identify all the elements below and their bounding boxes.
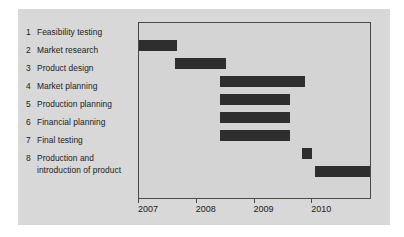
gantt-bar: [220, 130, 290, 141]
task-label: Production and introduction of product: [37, 153, 140, 176]
task-number: 5: [26, 99, 37, 111]
gantt-bar: [175, 58, 226, 69]
task-row: 7Final testing: [26, 135, 140, 147]
task-row: 8Production and introduction of product: [26, 153, 140, 176]
task-number: 4: [26, 81, 37, 93]
task-label: Product design: [37, 63, 140, 75]
task-number: 2: [26, 45, 37, 57]
gantt-bar: [220, 112, 290, 123]
axis-tick-label: 2008: [186, 204, 226, 214]
task-label: Feasibility testing: [37, 27, 140, 39]
task-row: 2Market research: [26, 45, 140, 57]
task-label: Market research: [37, 45, 140, 57]
task-row: 1Feasibility testing: [26, 27, 140, 39]
axis-tick-label: 2007: [128, 204, 168, 214]
task-row: 3Product design: [26, 63, 140, 75]
task-number: 3: [26, 63, 37, 75]
task-row: 4Market planning: [26, 81, 140, 93]
task-number: 7: [26, 135, 37, 147]
gantt-bar: [220, 94, 290, 105]
task-number: 6: [26, 117, 37, 129]
task-row: 6Financial planning: [26, 117, 140, 129]
gantt-plot-area: [138, 22, 371, 199]
axis-tick: [138, 199, 139, 203]
task-label: Financial planning: [37, 117, 140, 129]
axis-tick: [196, 199, 197, 203]
task-number: 8: [26, 153, 37, 165]
gantt-bar: [220, 76, 305, 87]
gantt-bar: [315, 166, 370, 177]
axis-tick-label: 2010: [301, 204, 341, 214]
axis-tick: [311, 199, 312, 203]
axis-tick: [254, 199, 255, 203]
x-axis: 2007200820092010: [138, 199, 372, 225]
gantt-chart-figure: 1Feasibility testing2Market research3Pro…: [18, 9, 390, 225]
gantt-bar: [139, 40, 177, 51]
task-number: 1: [26, 27, 37, 39]
task-label: Production planning: [37, 99, 140, 111]
axis-tick-label: 2009: [244, 204, 284, 214]
task-list: 1Feasibility testing2Market research3Pro…: [18, 9, 138, 225]
task-label: Market planning: [37, 81, 140, 93]
gantt-bar: [302, 148, 312, 159]
task-label: Final testing: [37, 135, 140, 147]
task-row: 5Production planning: [26, 99, 140, 111]
